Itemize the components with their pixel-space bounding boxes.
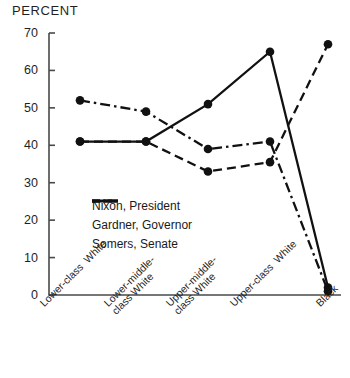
y-axis-tick-label: 0 bbox=[8, 288, 38, 302]
y-axis-tick-label: 10 bbox=[8, 251, 38, 265]
data-point-marker bbox=[266, 47, 275, 56]
legend-item-somers: Somers, Senate bbox=[92, 234, 192, 253]
chart-plot-area bbox=[0, 0, 350, 378]
data-point-marker bbox=[266, 158, 275, 167]
data-point-marker bbox=[204, 100, 213, 109]
y-axis-tick-label: 60 bbox=[8, 63, 38, 77]
data-point-marker bbox=[204, 145, 213, 154]
legend-label-somers: Somers, Senate bbox=[92, 237, 178, 251]
chart-container: PERCENT 010203040506070 Lower-class Whit… bbox=[0, 0, 350, 378]
y-axis-tick-label: 30 bbox=[8, 176, 38, 190]
y-axis-tick-label: 70 bbox=[8, 26, 38, 40]
y-axis-tick-label: 50 bbox=[8, 101, 38, 115]
data-point-marker bbox=[266, 137, 275, 146]
data-point-marker bbox=[204, 167, 213, 176]
y-axis-tick-label: 40 bbox=[8, 138, 38, 152]
legend-label-gardner: Gardner, Governor bbox=[92, 218, 192, 232]
data-point-marker bbox=[142, 137, 151, 146]
y-axis-tick-label: 20 bbox=[8, 213, 38, 227]
data-point-marker bbox=[324, 40, 333, 49]
data-point-marker bbox=[76, 137, 85, 146]
legend-swatch-dashed-icon bbox=[92, 196, 118, 206]
legend-item-gardner: Gardner, Governor bbox=[92, 215, 192, 234]
data-point-marker bbox=[142, 107, 151, 116]
chart-legend: Nixon, President Gardner, Governor Somer… bbox=[92, 196, 192, 253]
data-point-marker bbox=[76, 96, 85, 105]
